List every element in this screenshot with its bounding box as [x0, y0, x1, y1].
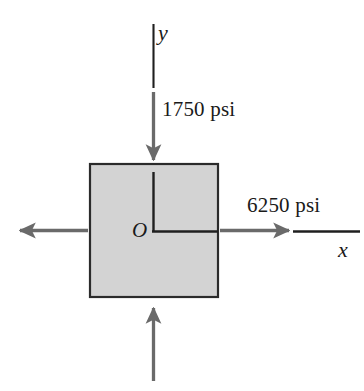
- stress-element-figure: y x 1750 psi 6250 psi O: [0, 0, 364, 391]
- origin-label: O: [132, 220, 147, 241]
- y-axis-label: y: [158, 22, 168, 44]
- x-axis-label: x: [338, 239, 348, 261]
- horizontal-stress-label: 6250 psi: [247, 195, 320, 216]
- vertical-stress-label: 1750 psi: [162, 99, 235, 120]
